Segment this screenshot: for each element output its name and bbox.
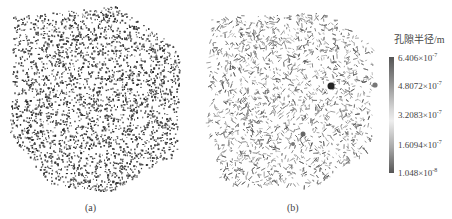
- colorbar-tick-1: 4.8072×10-7: [398, 80, 442, 91]
- pore-network-image: [203, 6, 383, 192]
- colorbar-tick-3: 1.6094×10-7: [398, 139, 442, 150]
- panel-b-pore-network: [203, 6, 383, 192]
- colorbar-tick-2: 3.2083×10-7: [398, 109, 442, 120]
- caption-a: (a): [85, 202, 96, 213]
- colorbar-gradient: [389, 57, 394, 173]
- colorbar-tick-0: 6.406×10-7: [398, 52, 437, 63]
- panel-a-point-cloud: [5, 4, 190, 194]
- colorbar-tick-4: 1.048×10-8: [398, 167, 437, 178]
- colorbar-title: 孔隙半径/m: [394, 31, 445, 46]
- pore-point-cloud-image: [5, 4, 190, 194]
- caption-b: (b): [287, 202, 299, 213]
